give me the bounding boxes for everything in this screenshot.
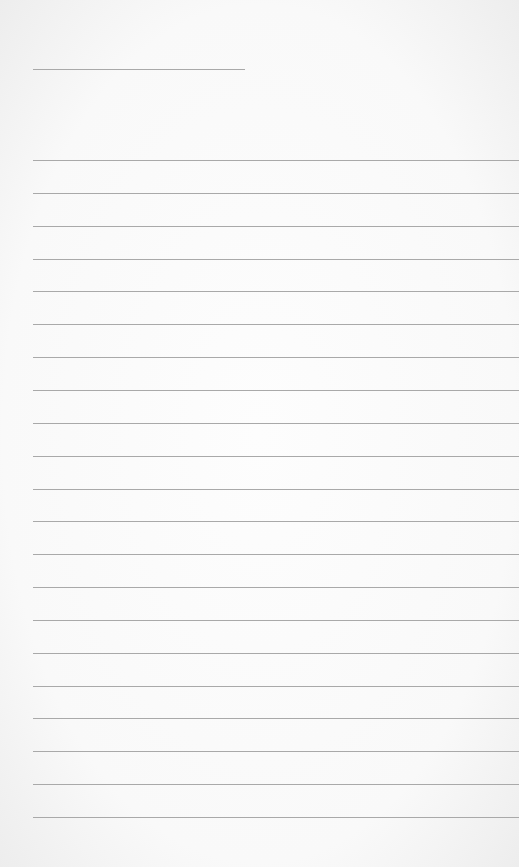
- header-line: [33, 69, 245, 70]
- ruled-line: [33, 686, 519, 687]
- ruled-line: [33, 718, 519, 719]
- ruled-line: [33, 193, 519, 194]
- lined-page: [0, 0, 519, 867]
- ruled-line: [33, 291, 519, 292]
- ruled-line: [33, 521, 519, 522]
- ruled-line: [33, 324, 519, 325]
- ruled-line: [33, 357, 519, 358]
- ruled-line: [33, 456, 519, 457]
- ruled-line: [33, 554, 519, 555]
- ruled-line: [33, 817, 519, 818]
- ruled-line: [33, 160, 519, 161]
- ruled-line: [33, 620, 519, 621]
- ruled-line: [33, 489, 519, 490]
- ruled-line: [33, 226, 519, 227]
- ruled-line: [33, 653, 519, 654]
- ruled-line: [33, 423, 519, 424]
- ruled-line: [33, 390, 519, 391]
- ruled-line: [33, 784, 519, 785]
- ruled-line: [33, 259, 519, 260]
- ruled-line: [33, 751, 519, 752]
- ruled-line: [33, 587, 519, 588]
